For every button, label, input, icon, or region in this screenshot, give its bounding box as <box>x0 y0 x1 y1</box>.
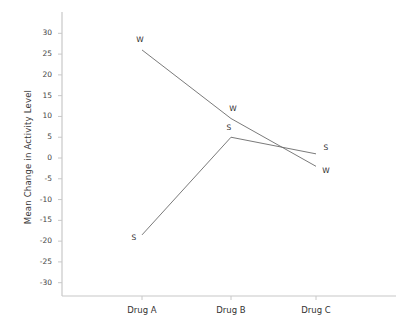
y-tick-label: -20 <box>26 236 52 245</box>
point-label-s-drug-a: S <box>128 233 140 242</box>
point-label-w-drug-a: W <box>134 35 146 44</box>
axes <box>62 12 396 296</box>
y-tick-label: 10 <box>26 111 52 120</box>
point-label-s-drug-c: S <box>320 143 332 152</box>
y-tick-label: 25 <box>26 49 52 58</box>
y-tick-label: 20 <box>26 70 52 79</box>
point-label-s-drug-b: S <box>223 123 235 132</box>
y-tick-label: 5 <box>26 132 52 141</box>
y-tick-label: -25 <box>26 257 52 266</box>
y-tick-label: -15 <box>26 215 52 224</box>
y-tick-label: -5 <box>26 174 52 183</box>
y-tick-label: -30 <box>26 278 52 287</box>
point-label-w-drug-b: W <box>227 104 239 113</box>
x-tick-label-drug-c: Drug C <box>281 305 351 315</box>
point-label-w-drug-c: W <box>320 166 332 175</box>
y-tick-label: -10 <box>26 195 52 204</box>
y-tick-label: 0 <box>26 153 52 162</box>
plot-canvas <box>0 0 420 332</box>
x-tick-label-drug-b: Drug B <box>196 305 266 315</box>
series-lines <box>142 50 316 235</box>
interaction-plot: Mean Change in Activity Level 3025201510… <box>0 0 420 332</box>
x-tick-label-drug-a: Drug A <box>107 305 177 315</box>
y-tick-label: 30 <box>26 28 52 37</box>
y-tick-label: 15 <box>26 91 52 100</box>
